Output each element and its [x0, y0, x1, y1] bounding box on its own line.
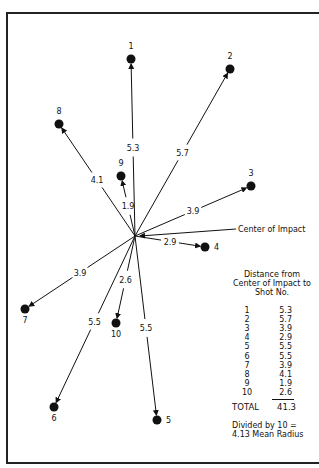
shot-distance: 5.3 [262, 306, 292, 315]
shot-number: 1 [232, 306, 262, 315]
total-value: 41.3 [270, 403, 296, 412]
shot-number: 4 [232, 333, 262, 342]
shot-7: 3.97 [21, 236, 136, 325]
shot-distance: 1.9 [262, 379, 292, 388]
shot-2: 5.72 [135, 52, 235, 236]
shot-number: 9 [232, 379, 262, 388]
ray-line [102, 187, 135, 236]
shot-number: 3 [232, 324, 262, 333]
shot-distance: 4.1 [262, 370, 292, 379]
shot-number: 8 [232, 370, 262, 379]
footer-line: Divided by 10 = [232, 421, 319, 430]
shot-number: 2 [232, 315, 262, 324]
bullet-hole-icon [201, 243, 210, 252]
table-header-line: Center of Impact to [232, 279, 312, 288]
table-row: 25.7 [232, 315, 319, 324]
bullet-hole-icon [50, 403, 59, 412]
shot-distance: 3.9 [262, 324, 292, 333]
table-row: 42.9 [232, 333, 319, 342]
shot-number-label: 4 [214, 243, 219, 252]
distance-label: 5.5 [88, 318, 101, 327]
shot-distance: 2.9 [262, 333, 292, 342]
shot-5: 5.55 [135, 236, 171, 425]
bullet-hole-icon [153, 416, 162, 425]
bullet-hole-icon [55, 120, 64, 129]
total-row: TOTAL 41.3 [232, 403, 319, 412]
center-of-impact-label: Center of Impact [238, 225, 305, 234]
shot-10: 2.610 [111, 236, 135, 339]
mean-radius-note: Divided by 10 = 4.13 Mean Radius [232, 421, 319, 439]
distance-label: 2.6 [119, 276, 132, 285]
shot-number-label: 6 [51, 414, 56, 423]
table-row: 15.3 [232, 306, 319, 315]
shot-distance: 5.5 [262, 342, 292, 351]
center-of-impact-pointer: Center of Impact [140, 225, 305, 236]
ray-line [135, 160, 178, 236]
ray-arrow [131, 64, 133, 139]
ray-arrow [29, 277, 72, 306]
bullet-hole-icon [117, 172, 126, 181]
total-underline [272, 399, 294, 400]
bullet-hole-icon [127, 55, 136, 64]
ray-arrow [122, 181, 126, 197]
ray-arrow [62, 128, 92, 172]
table-row: 55.5 [232, 342, 319, 351]
distance-label: 4.1 [91, 176, 104, 185]
shot-number-label: 7 [22, 316, 27, 325]
shot-number-label: 9 [118, 159, 123, 168]
ray-arrow [187, 73, 228, 144]
distance-label: 5.3 [127, 144, 140, 153]
table-header-line: Shot No. [232, 288, 312, 297]
table-row: 65.5 [232, 352, 319, 361]
distance-label: 2.9 [164, 238, 177, 247]
shot-number-label: 10 [111, 330, 121, 339]
table-row: 91.9 [232, 379, 319, 388]
bullet-hole-icon [247, 182, 256, 191]
shot-number-label: 5 [166, 416, 171, 425]
bullet-hole-icon [226, 65, 235, 74]
shot-distance: 5.5 [262, 352, 292, 361]
shot-8: 4.18 [55, 107, 136, 236]
shot-distance: 3.9 [262, 361, 292, 370]
shot-number: 10 [232, 388, 262, 397]
shot-distance: 2.6 [262, 388, 292, 397]
table-header-line: Distance from [232, 270, 312, 279]
shot-number-label: 1 [128, 42, 133, 51]
distance-label: 3.9 [187, 207, 200, 216]
bullet-hole-icon [21, 305, 30, 314]
ray-line [135, 236, 145, 319]
distance-label: 5.7 [176, 149, 189, 158]
table-row: 84.1 [232, 370, 319, 379]
ray-arrow [117, 288, 124, 318]
total-label: TOTAL [232, 403, 270, 412]
footer-line: 4.13 Mean Radius [232, 430, 319, 439]
shot-distance: 5.7 [262, 315, 292, 324]
shot-number-label: 3 [248, 169, 253, 178]
distance-label: 3.9 [74, 269, 87, 278]
ray-line [133, 156, 135, 236]
table-row: 102.6 [232, 388, 319, 397]
shot-number-label: 8 [56, 107, 61, 116]
distance-label: 5.5 [140, 324, 153, 333]
shot-9: 1.99 [117, 159, 136, 236]
shot-4: 2.94 [135, 236, 219, 252]
shot-number: 7 [232, 361, 262, 370]
bullet-hole-icon [112, 319, 121, 328]
shot-number: 5 [232, 342, 262, 351]
shot-number: 6 [232, 352, 262, 361]
ray-arrow [56, 330, 91, 403]
distance-table: Distance from Center of Impact to Shot N… [232, 270, 319, 439]
shot-number-label: 2 [227, 52, 232, 61]
ray-line [135, 236, 161, 240]
table-row: 33.9 [232, 324, 319, 333]
ray-line [127, 236, 135, 271]
distance-label: 1.9 [122, 202, 135, 211]
table-row: 73.9 [232, 361, 319, 370]
table-header: Distance from Center of Impact to Shot N… [232, 270, 312, 298]
ray-arrow [147, 337, 156, 415]
table-rows: 15.325.733.942.955.565.573.984.191.9102.… [232, 306, 319, 398]
ray-arrow [201, 188, 246, 207]
ray-arrow [179, 243, 200, 246]
